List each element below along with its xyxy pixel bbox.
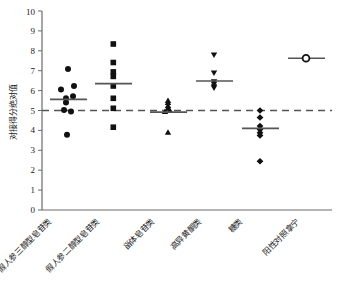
data-point bbox=[64, 132, 70, 138]
series-group-5 bbox=[242, 107, 279, 164]
y-tick-label-6: 6 bbox=[31, 86, 36, 96]
y-tick-label-7: 7 bbox=[31, 66, 36, 76]
y-tick-label-4: 4 bbox=[31, 125, 36, 135]
x-tick-label-4: 高异黄酮类 bbox=[168, 216, 203, 251]
data-point bbox=[63, 100, 69, 106]
data-point bbox=[211, 86, 217, 92]
y-tick-label-8: 8 bbox=[31, 46, 36, 56]
data-point bbox=[111, 74, 117, 80]
data-point bbox=[257, 114, 264, 121]
data-point bbox=[71, 83, 77, 89]
data-point bbox=[257, 107, 264, 114]
series-group-2 bbox=[95, 41, 132, 130]
x-tick-label-5: 糖类 bbox=[226, 216, 244, 234]
data-point bbox=[165, 129, 171, 135]
series-group-6 bbox=[288, 55, 325, 62]
data-point bbox=[111, 96, 117, 102]
data-point bbox=[211, 70, 217, 76]
data-point bbox=[111, 60, 117, 66]
y-tick-label-5: 5 bbox=[31, 106, 36, 116]
x-tick-label-3: 甾体皂苷类 bbox=[121, 216, 156, 251]
data-point bbox=[70, 93, 76, 99]
x-axis-labels: 假人参三醇型皂苷类 假人参二醇型皂苷类 甾体皂苷类 高异黄酮类 糖类 阳性对照拿… bbox=[0, 216, 301, 274]
y-tick-label-0: 0 bbox=[31, 205, 36, 215]
data-point bbox=[61, 107, 67, 113]
x-tick-label-6: 阳性对照拿宁 bbox=[260, 216, 301, 257]
y-tick-label-9: 9 bbox=[31, 26, 36, 36]
series-group-1 bbox=[50, 66, 87, 138]
y-tick-label-2: 2 bbox=[31, 165, 36, 175]
y-axis-title: 对接得分绝对值 bbox=[8, 84, 18, 140]
data-point bbox=[111, 106, 117, 112]
y-tick-label-3: 3 bbox=[31, 145, 36, 155]
y-axis: 0 1 2 3 4 5 6 7 8 9 10 bbox=[26, 7, 42, 216]
y-tick-label-1: 1 bbox=[31, 185, 36, 195]
series-group-4 bbox=[196, 53, 233, 92]
dot-plot-chart: 对接得分绝对值 0 1 2 3 4 5 6 7 8 9 10 bbox=[0, 0, 340, 296]
data-point bbox=[111, 41, 117, 47]
y-tick-label-10: 10 bbox=[26, 7, 36, 17]
data-point bbox=[65, 66, 71, 72]
data-point bbox=[58, 87, 64, 93]
x-tick-label-2: 假人参二醇型皂苷类 bbox=[43, 216, 101, 274]
data-point bbox=[257, 158, 264, 165]
y-axis-label-text: 对接得分绝对值 bbox=[8, 84, 18, 140]
data-point bbox=[68, 109, 74, 115]
chart-canvas: 对接得分绝对值 0 1 2 3 4 5 6 7 8 9 10 bbox=[0, 0, 340, 296]
series-group-3 bbox=[150, 98, 187, 135]
data-point bbox=[303, 55, 310, 62]
data-point bbox=[211, 53, 217, 59]
data-point bbox=[111, 124, 117, 130]
